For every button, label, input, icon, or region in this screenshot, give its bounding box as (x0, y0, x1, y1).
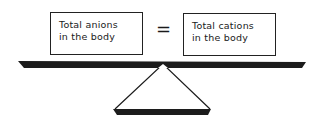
balance-scale-icon (0, 0, 316, 124)
fulcrum-base (113, 109, 211, 115)
fulcrum-triangle (115, 64, 210, 109)
